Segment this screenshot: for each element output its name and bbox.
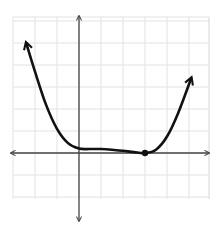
function-curve [26,43,191,153]
axes [11,16,209,221]
highlighted-points [142,150,148,156]
root-point [142,150,148,156]
function-graph [0,0,218,231]
